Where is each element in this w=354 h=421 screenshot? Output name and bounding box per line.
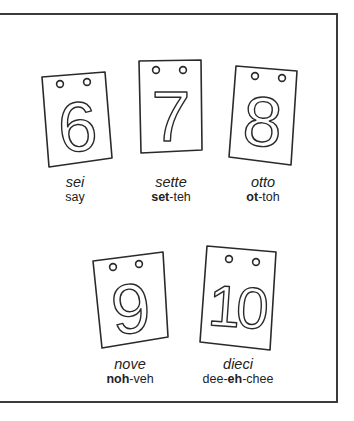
- italian-word: dieci: [183, 357, 293, 372]
- ring-hole-icon: [253, 259, 260, 266]
- numeral-8: 8: [240, 82, 284, 163]
- pron-part: say: [65, 190, 84, 204]
- card-9: 9: [93, 252, 168, 350]
- card-7: 7: [139, 60, 202, 156]
- label-9: nove noh-veh: [75, 357, 185, 387]
- pronunciation: say: [20, 190, 130, 205]
- ring-hole-icon: [252, 73, 259, 80]
- numeral-6: 6: [55, 87, 99, 168]
- pronunciation: dee-eh-chee: [183, 372, 293, 387]
- pron-part-stressed: eh: [228, 372, 243, 386]
- card-8: 8: [229, 66, 297, 165]
- card-10: 10: [200, 246, 276, 350]
- italian-word: sei: [20, 175, 130, 190]
- ring-hole-icon: [279, 75, 286, 82]
- pron-part: -teh: [169, 190, 191, 204]
- label-10: dieci dee-eh-chee: [183, 357, 293, 387]
- pronunciation: noh-veh: [75, 372, 185, 387]
- italian-word: otto: [208, 175, 318, 190]
- label-6: sei say: [20, 175, 130, 205]
- numeral-10: 10: [206, 272, 269, 341]
- ring-hole-icon: [110, 264, 117, 271]
- ring-hole-icon: [226, 256, 233, 263]
- ring-hole-icon: [57, 81, 64, 88]
- pronunciation: ot-toh: [208, 190, 318, 205]
- numeral-7: 7: [152, 78, 191, 156]
- pron-part: dee-: [203, 372, 228, 386]
- ring-hole-icon: [84, 79, 91, 86]
- pron-part-stressed: set: [151, 190, 169, 204]
- pron-part-stressed: ot: [246, 190, 258, 204]
- card-6: 6: [42, 72, 112, 167]
- pron-part: -toh: [258, 190, 280, 204]
- ring-hole-icon: [136, 261, 143, 268]
- pron-part: -chee: [242, 372, 273, 386]
- ring-hole-icon: [180, 67, 187, 74]
- pron-part: -veh: [129, 372, 153, 386]
- label-8: otto ot-toh: [208, 175, 318, 205]
- ring-hole-icon: [153, 67, 160, 74]
- italian-word: nove: [75, 357, 185, 372]
- numeral-9: 9: [108, 268, 154, 349]
- pron-part-stressed: noh: [106, 372, 129, 386]
